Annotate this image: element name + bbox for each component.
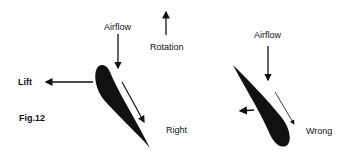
right-label: Right [166,125,187,135]
airfoil-wrong [233,65,290,147]
airflow-label-wrong: Airflow [254,30,281,40]
wrong-label: Wrong [306,126,332,136]
rotation-label: Rotation [150,42,184,52]
lift-label: Lift [18,77,32,87]
figure-caption: Fig.12 [19,113,45,123]
airflow-label-right: Airflow [104,22,131,32]
airfoil-diagram [0,0,351,161]
airfoil-right [95,65,150,148]
lift-arrow-wrong [240,110,254,111]
